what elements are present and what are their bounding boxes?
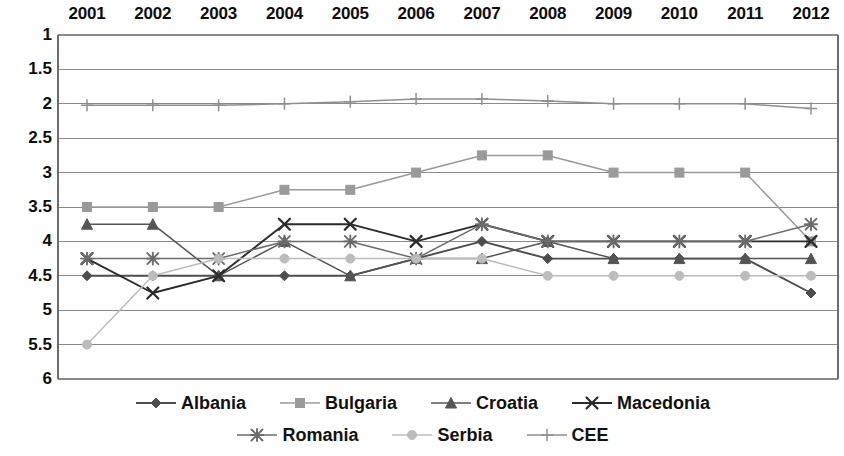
point-serbia-2003 [214, 254, 223, 263]
series-albania [82, 236, 816, 298]
point-romania-2010 [673, 235, 685, 247]
point-bulgaria-2004 [280, 185, 289, 194]
point-serbia-2001 [83, 340, 92, 349]
point-serbia-2008 [543, 271, 552, 280]
series-line-serbia [87, 259, 811, 345]
point-bulgaria-2006 [412, 168, 421, 177]
point-cee-2001 [82, 100, 93, 111]
point-bulgaria-2005 [346, 185, 355, 194]
point-bulgaria-2002 [148, 203, 157, 212]
legend-item-albania[interactable]: Albania [134, 392, 246, 414]
legend-marker-plus-icon [525, 424, 569, 446]
legend-item-bulgaria[interactable]: Bulgaria [278, 392, 397, 414]
point-cee-2003 [213, 100, 224, 111]
point-bulgaria-2009 [609, 168, 618, 177]
legend-marker-diamond-icon [134, 392, 178, 414]
point-serbia-2002 [148, 271, 157, 280]
legend-item-macedonia[interactable]: Macedonia [570, 392, 710, 414]
point-bulgaria-2001 [83, 203, 92, 212]
point-serbia-2009 [609, 271, 618, 280]
legend-label-cee: CEE [572, 425, 609, 446]
point-cee-2006 [411, 93, 422, 104]
point-serbia-2010 [675, 271, 684, 280]
line-chart: 2001200220032004200520062007200820092010… [0, 0, 844, 456]
plot-area [0, 0, 844, 456]
marker-plus [541, 430, 552, 441]
legend-marker-triangle-icon [429, 392, 473, 414]
point-cee-2007 [476, 93, 487, 104]
point-serbia-2004 [280, 254, 289, 263]
legend-row-1: RomaniaSerbiaCEE [0, 424, 844, 446]
point-bulgaria-2011 [741, 168, 750, 177]
point-serbia-2007 [477, 254, 486, 263]
point-romania-2005 [344, 235, 356, 247]
legend-label-serbia: Serbia [437, 425, 492, 446]
point-albania-2012 [806, 288, 816, 298]
marker-diamond [151, 398, 161, 408]
series-serbia [83, 254, 816, 349]
point-bulgaria-2010 [675, 168, 684, 177]
point-macedonia-2002 [147, 288, 158, 299]
point-romania-2011 [739, 235, 751, 247]
point-serbia-2005 [346, 254, 355, 263]
point-albania-2001 [82, 271, 92, 281]
series-line-bulgaria [87, 155, 811, 241]
legend-label-albania: Albania [181, 393, 246, 414]
point-cee-2009 [608, 98, 619, 109]
chart-legend: AlbaniaBulgariaCroatiaMacedoniaRomaniaSe… [0, 392, 844, 456]
point-romania-2007 [476, 218, 488, 230]
point-serbia-2012 [807, 271, 816, 280]
point-albania-2004 [279, 271, 289, 281]
marker-square [295, 399, 304, 408]
legend-label-croatia: Croatia [476, 393, 538, 414]
point-cee-2004 [279, 98, 290, 109]
point-cee-2011 [740, 98, 751, 109]
legend-item-cee[interactable]: CEE [525, 424, 609, 446]
legend-item-croatia[interactable]: Croatia [429, 392, 538, 414]
series-line-albania [87, 241, 811, 293]
legend-marker-cross-icon [570, 392, 614, 414]
point-serbia-2006 [412, 254, 421, 263]
legend-label-macedonia: Macedonia [617, 393, 710, 414]
point-romania-2008 [542, 235, 554, 247]
point-bulgaria-2008 [543, 151, 552, 160]
legend-row-0: AlbaniaBulgariaCroatiaMacedonia [0, 392, 844, 414]
legend-marker-square-icon [278, 392, 322, 414]
point-romania-2009 [608, 235, 620, 247]
point-bulgaria-2007 [477, 151, 486, 160]
legend-label-bulgaria: Bulgaria [325, 393, 397, 414]
point-romania-2004 [278, 235, 290, 247]
legend-marker-circle-icon [390, 424, 434, 446]
point-romania-2012 [805, 218, 817, 230]
point-cee-2010 [674, 98, 685, 109]
point-serbia-2011 [741, 271, 750, 280]
point-bulgaria-2003 [214, 203, 223, 212]
point-albania-2008 [543, 254, 553, 264]
marker-star [251, 429, 263, 441]
marker-circle [408, 431, 417, 440]
point-cee-2005 [345, 96, 356, 107]
point-albania-2007 [477, 236, 487, 246]
series-bulgaria [83, 151, 816, 246]
legend-marker-star-icon [235, 424, 279, 446]
point-romania-2001 [81, 253, 93, 265]
legend-item-romania[interactable]: Romania [235, 424, 358, 446]
point-cee-2002 [147, 100, 158, 111]
legend-label-romania: Romania [282, 425, 358, 446]
point-romania-2002 [147, 253, 159, 265]
point-cee-2012 [806, 103, 817, 114]
point-cee-2008 [542, 96, 553, 107]
legend-item-serbia[interactable]: Serbia [390, 424, 492, 446]
